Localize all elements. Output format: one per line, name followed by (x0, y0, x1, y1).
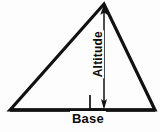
altitude-label: Altitude (92, 30, 104, 78)
geometry-diagram: Altitude Base (0, 0, 160, 132)
triangle-outline (10, 4, 155, 110)
base-label: Base (70, 111, 106, 127)
